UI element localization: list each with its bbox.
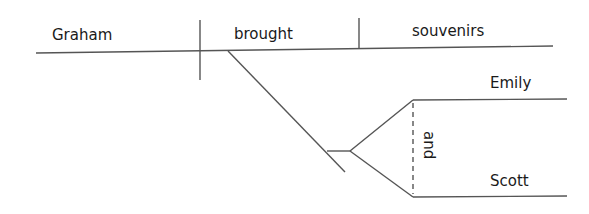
modifier-diagonal bbox=[228, 51, 345, 172]
compound-lower-word: Scott bbox=[490, 172, 529, 190]
baseline bbox=[36, 46, 553, 53]
sentence-diagram: Graham brought souvenirs Emily Scott and bbox=[0, 0, 589, 214]
object-word: souvenirs bbox=[412, 22, 484, 40]
compound-upper-line bbox=[413, 99, 567, 100]
conjunction-word: and bbox=[420, 131, 438, 159]
fork-lower bbox=[350, 151, 413, 197]
compound-lower-line bbox=[413, 196, 567, 197]
fork-upper bbox=[350, 100, 413, 151]
compound-upper-word: Emily bbox=[490, 74, 531, 92]
subject-word: Graham bbox=[52, 26, 112, 44]
verb-word: brought bbox=[234, 25, 293, 43]
